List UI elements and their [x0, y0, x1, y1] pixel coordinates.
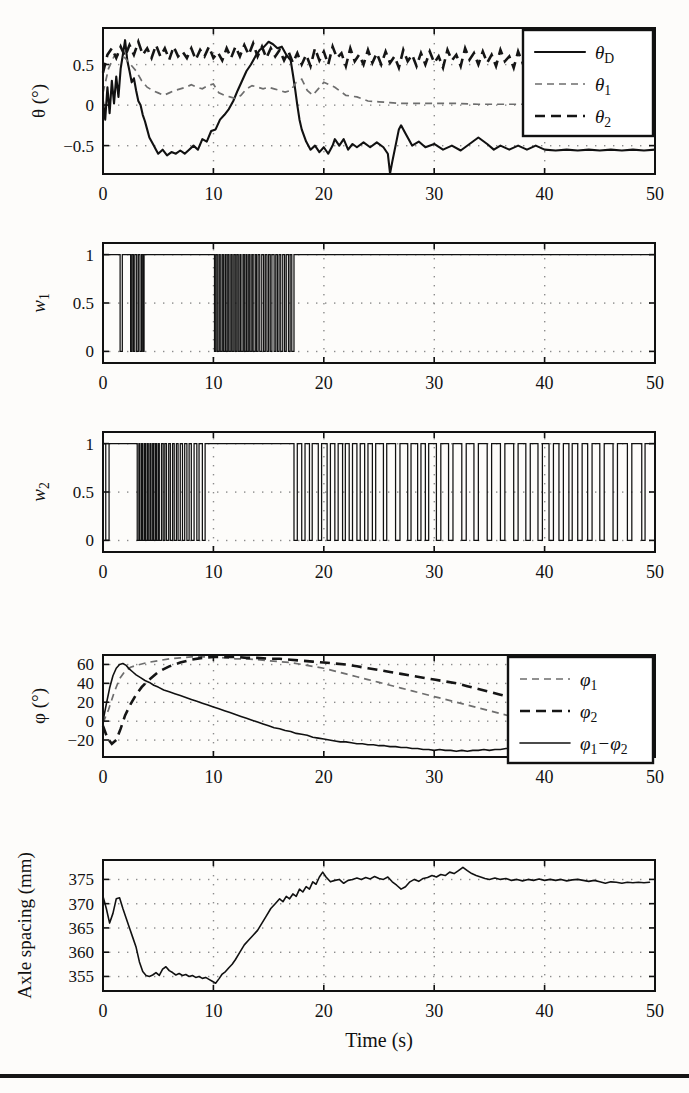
grid-dot — [325, 952, 326, 953]
grid-dot — [568, 952, 569, 953]
grid-dot — [154, 351, 155, 352]
grid-dot — [136, 664, 137, 665]
grid-dot — [631, 145, 632, 146]
grid-dot — [190, 952, 191, 953]
grid-dot — [544, 276, 545, 277]
grid-dot — [434, 661, 435, 662]
grid-dot — [460, 952, 461, 953]
grid-dot — [370, 683, 371, 684]
grid-dot — [424, 351, 425, 352]
grid-dot — [434, 688, 435, 689]
x-tick-label-theta: 30 — [425, 184, 443, 204]
grid-dot — [316, 302, 317, 303]
x-tick-label-axle: 40 — [536, 1001, 554, 1021]
grid-dot — [640, 145, 641, 146]
grid-dot — [505, 927, 506, 928]
grid-dot — [544, 501, 545, 502]
grid-dot — [434, 893, 435, 894]
grid-dot — [145, 952, 146, 953]
grid-dot — [388, 145, 389, 146]
grid-dot — [323, 249, 324, 250]
grid-dot — [109, 976, 110, 977]
grid-dot — [323, 43, 324, 44]
grid-dot — [442, 683, 443, 684]
multi-panel-time-series-figure: 0.50−0.501020304050θ (°)θDθ1θ210.5001020… — [0, 0, 689, 1093]
grid-dot — [127, 683, 128, 684]
grid-dot — [434, 61, 435, 62]
grid-dot — [622, 491, 623, 492]
grid-dot — [262, 952, 263, 953]
grid-dot — [496, 739, 497, 740]
grid-dot — [271, 104, 272, 105]
x-tick-label-w2: 40 — [536, 562, 554, 582]
grid-dot — [213, 697, 214, 698]
grid-dot — [181, 683, 182, 684]
grid-dot — [505, 903, 506, 904]
grid-dot — [550, 952, 551, 953]
grid-dot — [640, 976, 641, 977]
grid-dot — [514, 927, 515, 928]
grid-dot — [406, 721, 407, 722]
grid-dot — [604, 145, 605, 146]
grid-dot — [208, 491, 209, 492]
grid-dot — [397, 903, 398, 904]
grid-dot — [127, 104, 128, 105]
grid-dot — [541, 903, 542, 904]
grid-dot — [406, 302, 407, 303]
grid-dot — [298, 683, 299, 684]
grid-dot — [323, 34, 324, 35]
grid-dot — [208, 145, 209, 146]
grid-dot — [316, 927, 317, 928]
grid-dot — [226, 952, 227, 953]
grid-dot — [181, 927, 182, 928]
grid-dot — [217, 952, 218, 953]
grid-dot — [181, 664, 182, 665]
grid-dot — [163, 903, 164, 904]
grid-dot — [541, 302, 542, 303]
grid-dot — [523, 927, 524, 928]
grid-dot — [298, 491, 299, 492]
grid-dot — [271, 64, 272, 65]
grid-dot — [172, 302, 173, 303]
grid-dot — [487, 952, 488, 953]
grid-dot — [154, 302, 155, 303]
grid-dot — [217, 491, 218, 492]
grid-dot — [343, 903, 344, 904]
grid-dot — [379, 927, 380, 928]
grid-dot — [323, 294, 324, 295]
grid-dot — [298, 145, 299, 146]
x-tick-label-w2: 50 — [646, 562, 664, 582]
grid-dot — [434, 267, 435, 268]
grid-dot — [397, 976, 398, 977]
grid-dot — [253, 927, 254, 928]
grid-dot — [434, 947, 435, 948]
grid-dot — [226, 664, 227, 665]
grid-dot — [469, 64, 470, 65]
grid-dot — [217, 145, 218, 146]
grid-dot — [514, 351, 515, 352]
grid-dot — [487, 683, 488, 684]
grid-dot — [622, 302, 623, 303]
grid-dot — [604, 952, 605, 953]
grid-dot — [442, 903, 443, 904]
grid-dot — [523, 540, 524, 541]
grid-dot — [544, 258, 545, 259]
grid-dot — [213, 115, 214, 116]
grid-dot — [316, 952, 317, 953]
grid-dot — [613, 145, 614, 146]
grid-dot — [361, 104, 362, 105]
grid-dot — [487, 64, 488, 65]
grid-dot — [586, 903, 587, 904]
grid-dot — [190, 664, 191, 665]
grid-dot — [323, 528, 324, 529]
grid-dot — [352, 351, 353, 352]
grid-dot — [307, 351, 308, 352]
x-tick-label-theta: 20 — [315, 184, 333, 204]
grid-dot — [323, 79, 324, 80]
grid-dot — [388, 976, 389, 977]
grid-dot — [163, 104, 164, 105]
grid-dot — [434, 884, 435, 885]
grid-dot — [244, 702, 245, 703]
grid-dot — [361, 540, 362, 541]
grid-dot — [388, 491, 389, 492]
